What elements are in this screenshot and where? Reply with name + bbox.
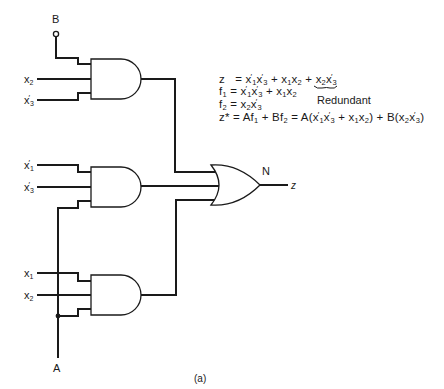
wire-and-bottom-to-or <box>141 200 215 295</box>
wire-x3p-to-and-top <box>37 93 91 100</box>
label-b: B <box>52 14 59 25</box>
label-input-x2-bottom: x2 <box>24 290 33 302</box>
wire-x1-to-and-bottom <box>37 273 91 281</box>
equation-f2: f2 = x2x3 <box>219 99 262 112</box>
label-input-x3-prime-top: x3 <box>24 95 34 107</box>
circuit-diagram <box>0 0 444 389</box>
label-n: N <box>262 166 270 177</box>
label-input-x3-prime-middle: x3 <box>24 182 34 194</box>
wire-a-to-and-bottom <box>58 309 91 316</box>
and-gate-bottom <box>91 275 141 315</box>
wire-b-to-and-top <box>56 37 91 64</box>
input-terminal-b <box>53 31 58 36</box>
redundant-annotation: Redundant <box>317 95 371 106</box>
label-input-x1-prime-middle: x1 <box>24 160 34 172</box>
equation-f1: f1 = x1x3 + x1x2 <box>219 86 297 99</box>
label-input-x2-top: x2 <box>24 74 33 86</box>
label-a: A <box>53 363 60 374</box>
junction-dot-a <box>56 314 61 319</box>
wire-a-to-and-middle <box>58 201 91 358</box>
label-z-output: z <box>291 181 296 191</box>
wire-x1p-to-and-middle <box>37 165 91 172</box>
equation-z-star: z* = Af1 + Bf2 = A(x1x3 + x1x2) + B(x2x3… <box>219 112 424 125</box>
or-gate-n <box>211 165 260 205</box>
and-gate-top <box>91 59 141 99</box>
and-gate-middle <box>91 167 141 207</box>
label-input-x1-bottom: x1 <box>24 268 33 280</box>
wire-and-top-to-or <box>141 79 215 172</box>
figure-caption: (a) <box>194 374 206 384</box>
